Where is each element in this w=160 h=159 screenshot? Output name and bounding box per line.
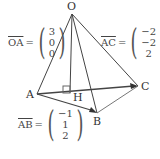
equals-sign: = <box>118 37 126 48</box>
component-z: 2 <box>146 48 152 59</box>
component-x: 3 <box>49 26 55 37</box>
point-label-H: H <box>73 92 83 103</box>
vector-AC <box>37 86 134 94</box>
component-y: −2 <box>141 37 156 48</box>
component-x: −2 <box>141 26 156 37</box>
edge-OH <box>70 14 72 93</box>
equals-sign: = <box>35 119 43 130</box>
left-paren: ( <box>38 24 45 60</box>
component-y: 0 <box>49 37 55 48</box>
vector-name-AC: AC <box>101 37 116 48</box>
left-paren: ( <box>131 24 138 60</box>
vector-AB-definition: AB = ( −1 1 2 ) <box>18 106 87 142</box>
right-paren: ) <box>59 24 66 60</box>
component-z: 2 <box>62 130 68 141</box>
point-label-O: O <box>67 1 76 12</box>
point-label-A: A <box>26 89 34 100</box>
point-label-C: C <box>141 81 149 92</box>
equals-sign: = <box>25 37 33 48</box>
edge-BC <box>97 86 138 113</box>
component-x: −1 <box>58 108 73 119</box>
vector-name-OA: OA <box>8 37 23 48</box>
right-paren: ) <box>76 106 83 142</box>
left-paren: ( <box>47 106 54 142</box>
point-label-B: B <box>93 116 101 127</box>
component-y: 1 <box>62 119 68 130</box>
vector-AB-components: −1 1 2 <box>58 108 73 141</box>
vector-name-AB: AB <box>18 119 33 130</box>
component-z: 0 <box>49 48 55 59</box>
vector-OA-components: 3 0 0 <box>49 26 55 59</box>
vector-AC-components: −2 −2 2 <box>141 26 156 59</box>
vector-OA-definition: OA = ( 3 0 0 ) <box>8 24 69 60</box>
vector-AC-definition: AC = ( −2 −2 2 ) <box>101 24 160 60</box>
